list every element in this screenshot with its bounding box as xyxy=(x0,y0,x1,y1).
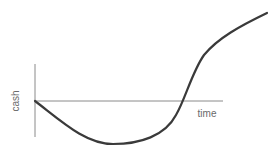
x-axis-label: time xyxy=(198,108,217,119)
j-curve-chart: cash time xyxy=(0,0,279,151)
y-axis-label: cash xyxy=(10,90,21,111)
cash-curve xyxy=(35,13,267,144)
